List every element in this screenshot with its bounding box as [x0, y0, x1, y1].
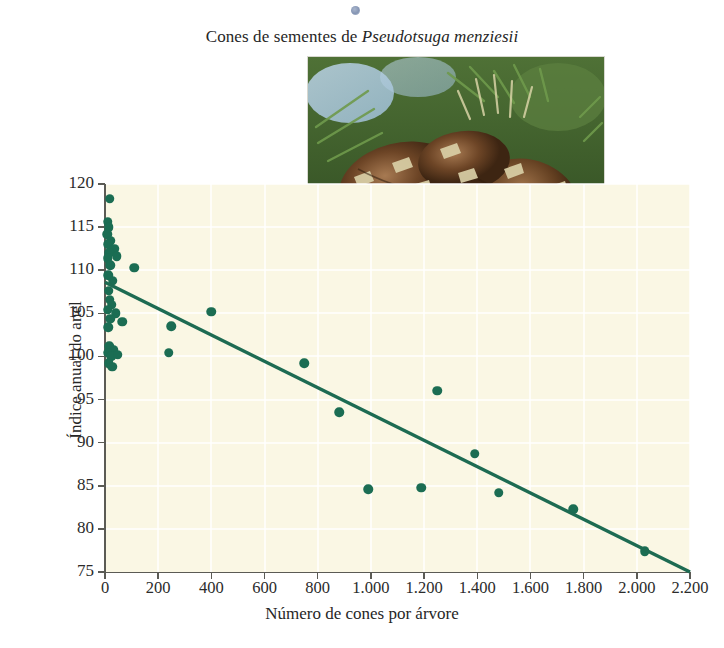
x-tick-label: 2.000	[618, 578, 655, 598]
y-axis-tick	[98, 399, 105, 401]
y-axis-tick	[98, 269, 105, 271]
y-tick-label: 120	[54, 173, 94, 193]
x-tick-label: 1.000	[352, 578, 389, 598]
x-tick-label: 200	[146, 578, 171, 598]
y-axis-title: Índice anual do anel	[66, 260, 86, 480]
x-tick-label: 400	[199, 578, 224, 598]
x-tick-label: 1.200	[406, 578, 443, 598]
y-axis-tick	[98, 528, 105, 530]
y-tick-label: 115	[54, 216, 94, 236]
y-tick-label: 80	[54, 518, 94, 538]
x-tick-label: 2.200	[671, 578, 708, 598]
scatter-plot: 02004006008001.0001.2001.4001.6001.8002.…	[0, 0, 724, 648]
x-tick-label: 800	[305, 578, 330, 598]
x-tick-label: 1.800	[565, 578, 602, 598]
regression-line-segment	[105, 282, 690, 572]
x-tick-label: 1.600	[512, 578, 549, 598]
x-tick-label: 1.400	[459, 578, 496, 598]
y-axis-tick	[98, 183, 105, 185]
x-axis-title: Número de cones por árvore	[0, 604, 724, 624]
y-axis-tick	[98, 442, 105, 444]
y-tick-label: 75	[54, 561, 94, 581]
regression-line	[105, 184, 690, 572]
x-tick-label: 600	[252, 578, 277, 598]
y-axis-tick	[98, 485, 105, 487]
x-tick-label: 0	[101, 578, 109, 598]
